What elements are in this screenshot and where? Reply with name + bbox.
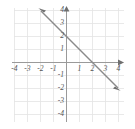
y-tick-label: 3 (59, 18, 64, 27)
y-tick-label: 1 (60, 44, 64, 53)
x-tick-label: 4 (117, 64, 121, 73)
y-tick-label: 4 (60, 5, 64, 14)
graph-canvas: -4 -3 -2 -1 1 2 3 4 4 3 2 1 -1 -2 -3 -4 (0, 0, 135, 129)
y-axis-arrow-icon (64, 6, 70, 12)
x-tick-label: -1 (50, 64, 56, 73)
x-tick-label: 1 (78, 64, 82, 73)
x-tick-label: 2 (91, 64, 95, 73)
x-tick-label: -3 (24, 64, 31, 73)
coordinate-graph-figure: -4 -3 -2 -1 1 2 3 4 4 3 2 1 -1 -2 -3 -4 (0, 0, 135, 129)
y-tick-label: 2 (60, 31, 64, 40)
y-axis-tick-labels: 4 3 2 1 -1 -2 -3 -4 (58, 5, 65, 118)
y-tick-label: -2 (58, 83, 65, 92)
x-tick-label: 3 (103, 64, 108, 73)
y-tick-label: -1 (58, 70, 64, 79)
y-tick-label: -4 (58, 109, 65, 118)
y-tick-label: -3 (58, 96, 65, 105)
x-tick-label: -2 (37, 64, 44, 73)
x-tick-label: -4 (11, 64, 18, 73)
